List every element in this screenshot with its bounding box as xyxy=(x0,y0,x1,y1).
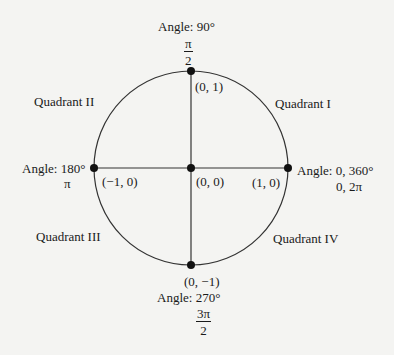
angle-0-radians: 0, 2π xyxy=(336,180,362,193)
angle-270-radians: 3π 2 xyxy=(196,307,211,337)
angle-180-degrees: Angle: 180° xyxy=(22,162,85,175)
point-center xyxy=(187,164,195,172)
quadrant-ii-label: Quadrant II xyxy=(34,95,94,108)
fraction-denominator: 2 xyxy=(196,322,211,337)
quadrant-iv-label: Quadrant IV xyxy=(273,232,338,245)
coord-left: (−1, 0) xyxy=(102,175,138,188)
point-right xyxy=(284,164,292,172)
quadrant-iii-label: Quadrant III xyxy=(36,230,101,243)
point-left xyxy=(90,164,98,172)
angle-180-radians: π xyxy=(64,177,71,190)
coord-top: (0, 1) xyxy=(195,80,223,93)
angle-90-degrees: Angle: 90° xyxy=(158,20,215,33)
fraction-numerator: π xyxy=(184,37,193,52)
point-top xyxy=(187,67,195,75)
fraction-numerator: 3π xyxy=(196,307,211,322)
fraction-denominator: 2 xyxy=(184,52,193,67)
coord-right: (1, 0) xyxy=(252,176,280,189)
angle-270-degrees: Angle: 270° xyxy=(157,291,220,304)
point-bottom xyxy=(187,261,195,269)
coord-center: (0, 0) xyxy=(196,175,224,188)
quadrant-i-label: Quadrant I xyxy=(275,97,331,110)
coord-bottom: (0, −1) xyxy=(184,275,220,288)
angle-0-degrees: Angle: 0, 360° xyxy=(297,164,373,177)
angle-90-radians: π 2 xyxy=(184,37,193,67)
